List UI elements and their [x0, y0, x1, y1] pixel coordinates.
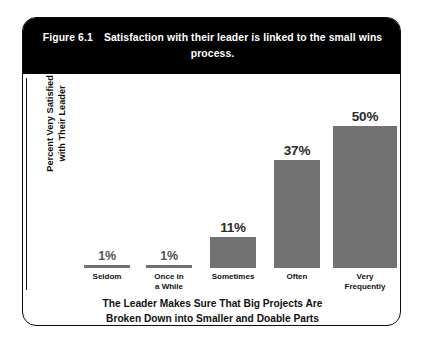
bar-column-often: 37% Often	[269, 143, 325, 268]
bar-label-seldom-line1: Seldom	[93, 272, 122, 282]
bar-group: 1% Seldom 1% Once in a While 11%	[69, 75, 401, 326]
y-axis-label: Percent Very Satisfied with Their Leader	[44, 43, 69, 203]
bar-label-once-in-a-while-line1: Once in	[154, 272, 183, 282]
figure-container: Figure 6.1Satisfaction with their leader…	[22, 17, 401, 326]
bar-label-very-frequently: Very Frequently	[345, 272, 386, 293]
bar-label-very-frequently-line1: Very	[345, 272, 386, 282]
bar-rect-once-in-a-while	[146, 265, 192, 268]
bar-label-often: Often	[287, 272, 308, 282]
y-axis-label-line1: Percent Very Satisfied	[44, 43, 56, 203]
bar-label-sometimes: Sometimes	[212, 272, 255, 282]
bar-column-once-in-a-while: 1% Once in a While	[141, 249, 197, 268]
y-axis-line	[26, 78, 27, 290]
plot-area: Percent Very Satisfied with Their Leader…	[23, 75, 401, 326]
bar-label-very-frequently-line2: Frequently	[345, 282, 386, 292]
x-axis-caption: The Leader Makes Sure That Big Projects …	[23, 297, 401, 326]
bar-label-once-in-a-while-line2: a While	[154, 282, 183, 292]
bar-rect-sometimes	[210, 237, 256, 268]
bar-rect-very-frequently	[333, 126, 397, 268]
bar-column-seldom: 1% Seldom	[79, 249, 135, 268]
bar-label-often-line1: Often	[287, 272, 308, 282]
bar-value-very-frequently: 50%	[329, 109, 401, 124]
figure-number: Figure 6.1	[43, 32, 93, 43]
bar-value-often: 37%	[269, 143, 325, 158]
bar-column-very-frequently: 50% Very Frequently	[329, 109, 401, 268]
bar-value-sometimes: 11%	[205, 220, 261, 235]
bar-label-sometimes-line1: Sometimes	[212, 272, 255, 282]
bar-label-once-in-a-while: Once in a While	[154, 272, 183, 293]
x-axis-caption-line1: The Leader Makes Sure That Big Projects …	[23, 297, 401, 312]
bar-label-seldom: Seldom	[93, 272, 122, 282]
bar-value-seldom: 1%	[79, 249, 135, 263]
y-axis-label-line2: with Their Leader	[56, 43, 68, 203]
bar-rect-seldom	[84, 265, 130, 268]
bar-column-sometimes: 11% Sometimes	[205, 220, 261, 268]
figure-title-text: Satisfaction with their leader is linked…	[104, 32, 382, 58]
x-axis-caption-line2: Broken Down into Smaller and Doable Part…	[23, 312, 401, 326]
bar-rect-often	[274, 160, 320, 268]
figure-title: Figure 6.1Satisfaction with their leader…	[38, 30, 387, 60]
figure-title-band: Figure 6.1Satisfaction with their leader…	[22, 17, 401, 74]
bar-value-once-in-a-while: 1%	[141, 249, 197, 263]
